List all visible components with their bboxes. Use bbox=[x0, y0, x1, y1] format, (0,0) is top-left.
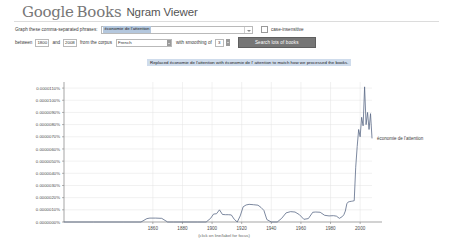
chart-gridlines bbox=[64, 82, 372, 222]
search-button[interactable]: Search lots of books bbox=[238, 37, 316, 48]
corpus-select[interactable]: French bbox=[116, 39, 172, 47]
y-tick-label: 0.0000070% bbox=[36, 134, 60, 139]
phrase-label: Graph these comma-separated phrases: bbox=[15, 27, 97, 33]
phrase-input-value: économie de l'attention bbox=[103, 26, 150, 33]
x-tick-label: 1880 bbox=[177, 226, 188, 231]
between-label: between bbox=[15, 40, 32, 46]
smoothing-label: with smoothing of bbox=[176, 40, 212, 46]
google-logo: Google bbox=[22, 3, 74, 21]
header-divider bbox=[14, 21, 439, 22]
chevron-down-icon[interactable] bbox=[167, 40, 171, 46]
phrase-row: Graph these comma-separated phrases: éco… bbox=[0, 24, 449, 35]
series-label[interactable]: économie de l'attention bbox=[377, 136, 424, 141]
focus-hint: (click on line/label for focus) bbox=[198, 233, 250, 238]
x-axis-ticks: 18601880190019201940196019802000 bbox=[148, 226, 366, 231]
chart-axes bbox=[62, 82, 382, 224]
ngram-chart[interactable]: 0.0000110%0.0000100%0.0000090%0.0000080%… bbox=[0, 74, 449, 250]
y-tick-label: 0.0000010% bbox=[36, 207, 60, 212]
books-wordmark: Books bbox=[77, 3, 122, 21]
corpus-select-value: French bbox=[118, 40, 132, 46]
case-insensitive-label: case-insensitive bbox=[271, 27, 304, 32]
chart-series[interactable]: économie de l'attention bbox=[64, 87, 424, 222]
y-tick-label: 0.0000040% bbox=[36, 171, 60, 176]
y-tick-label: 0.0000090% bbox=[36, 110, 60, 115]
x-tick-label: 1980 bbox=[325, 226, 336, 231]
year-end-input[interactable]: 2008 bbox=[63, 39, 77, 47]
and-label: and bbox=[52, 40, 60, 46]
x-tick-label: 1900 bbox=[207, 226, 218, 231]
product-title: Ngram Viewer bbox=[126, 6, 197, 18]
y-tick-label: 0.0000020% bbox=[36, 195, 60, 200]
x-tick-label: 1940 bbox=[266, 226, 277, 231]
chevron-down-icon[interactable] bbox=[226, 39, 230, 46]
y-tick-label: 0.0000110% bbox=[36, 86, 60, 91]
range-row: between 1800 and 2008 from the corpus Fr… bbox=[0, 37, 449, 48]
query-form: Graph these comma-separated phrases: éco… bbox=[0, 24, 449, 48]
x-tick-label: 1920 bbox=[237, 226, 248, 231]
y-tick-label: 0.0000000% bbox=[36, 220, 60, 225]
y-tick-label: 0.0000060% bbox=[36, 147, 60, 152]
series-line[interactable] bbox=[64, 87, 372, 222]
y-tick-label: 0.0000100% bbox=[36, 98, 60, 103]
phrase-input[interactable]: économie de l'attention bbox=[101, 26, 253, 34]
x-tick-label: 1860 bbox=[148, 226, 159, 231]
smoothing-input[interactable]: 3 bbox=[215, 39, 224, 47]
app-branding: GoogleBooksNgram Viewer bbox=[22, 4, 449, 20]
x-tick-label: 2000 bbox=[355, 226, 366, 231]
page-header: GoogleBooksNgram Viewer bbox=[0, 0, 449, 20]
corpus-label: from the corpus bbox=[80, 40, 112, 46]
y-axis-ticks: 0.0000110%0.0000100%0.0000090%0.0000080%… bbox=[36, 86, 60, 225]
y-tick-label: 0.0000080% bbox=[36, 122, 60, 127]
case-insensitive-checkbox[interactable] bbox=[261, 26, 268, 33]
chart-canvas[interactable]: 0.0000110%0.0000100%0.0000090%0.0000080%… bbox=[0, 74, 449, 250]
chevron-down-icon[interactable] bbox=[244, 27, 252, 33]
y-tick-label: 0.0000030% bbox=[36, 183, 60, 188]
x-tick-label: 1960 bbox=[296, 226, 307, 231]
y-tick-label: 0.0000050% bbox=[36, 159, 60, 164]
year-start-input[interactable]: 1800 bbox=[35, 39, 49, 47]
replacement-notice: Replaced économie de l'attention with éc… bbox=[147, 59, 351, 66]
